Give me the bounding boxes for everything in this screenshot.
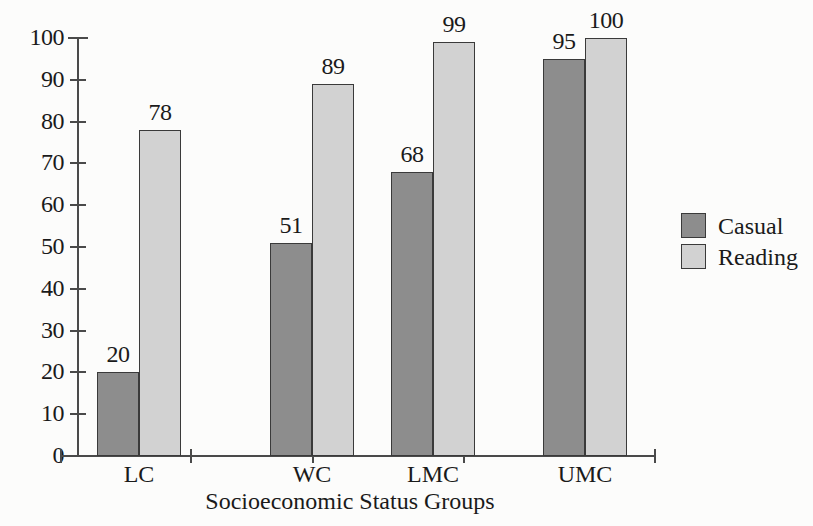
- bar-reading-wc[interactable]: [312, 84, 354, 456]
- y-tick-label-wrap: 80: [0, 109, 64, 133]
- y-tick-mark: [70, 371, 86, 373]
- y-tick-label-wrap: 100: [0, 25, 64, 49]
- y-tick-mark: [70, 204, 86, 206]
- bar-value-label: 100: [571, 8, 641, 32]
- y-tick-label-wrap: 30: [0, 318, 64, 342]
- x-category-label-lc: LC: [67, 462, 211, 486]
- legend-item-reading[interactable]: Reading: [681, 241, 798, 272]
- y-tick-label: 20: [20, 359, 64, 383]
- bar-reading-lc[interactable]: [139, 130, 181, 456]
- y-tick-label-wrap: 90: [0, 67, 64, 91]
- bar-reading-lmc[interactable]: [433, 42, 475, 456]
- y-tick-label-wrap: 50: [0, 234, 64, 258]
- legend-swatch-reading-icon: [681, 244, 706, 269]
- bar-value-label: 78: [125, 100, 195, 124]
- y-tick-label: 10: [20, 401, 64, 425]
- y-tick-label: 0: [20, 443, 64, 467]
- y-tick-mark: [70, 79, 86, 81]
- y-tick-label-wrap: 20: [0, 359, 64, 383]
- y-tick-label-wrap: 70: [0, 150, 64, 174]
- y-tick-label: 90: [20, 67, 64, 91]
- bar-value-label: 99: [419, 12, 489, 36]
- y-tick-label-wrap: 40: [0, 276, 64, 300]
- y-tick-label-wrap: 0: [0, 443, 64, 467]
- x-category-label-lmc: LMC: [361, 462, 505, 486]
- x-tick-mark: [60, 449, 62, 463]
- legend-label-reading: Reading: [718, 245, 798, 269]
- y-tick-mark: [70, 413, 86, 415]
- y-tick-label: 100: [20, 25, 64, 49]
- chart-canvas: 1009080706050403020100 20785189689995100…: [0, 0, 813, 526]
- legend-item-casual[interactable]: Casual: [681, 210, 798, 241]
- y-tick-mark: [70, 246, 86, 248]
- bar-casual-lmc[interactable]: [391, 172, 433, 456]
- y-tick-mark: [70, 288, 86, 290]
- y-tick-label: 50: [20, 234, 64, 258]
- legend: Casual Reading: [681, 210, 798, 272]
- bar-reading-umc[interactable]: [585, 38, 627, 456]
- y-tick-mark: [68, 37, 88, 39]
- y-tick-label-wrap: 10: [0, 401, 64, 425]
- x-tick-mark: [190, 449, 192, 463]
- y-tick-mark: [70, 121, 86, 123]
- x-category-label-umc: UMC: [513, 462, 657, 486]
- y-tick-label: 40: [20, 276, 64, 300]
- legend-label-casual: Casual: [718, 214, 783, 238]
- y-tick-label: 80: [20, 109, 64, 133]
- bar-casual-wc[interactable]: [270, 243, 312, 456]
- y-tick-mark: [70, 330, 86, 332]
- x-axis-title: Socioeconomic Status Groups: [0, 489, 700, 513]
- y-tick-mark: [70, 162, 86, 164]
- x-tick-mark: [654, 449, 656, 463]
- bar-casual-umc[interactable]: [543, 59, 585, 456]
- bar-casual-lc[interactable]: [97, 372, 139, 456]
- y-tick-label: 30: [20, 318, 64, 342]
- y-tick-label-wrap: 60: [0, 192, 64, 216]
- bar-value-label: 89: [298, 54, 368, 78]
- y-tick-label: 60: [20, 192, 64, 216]
- y-tick-label: 70: [20, 150, 64, 174]
- legend-swatch-casual-icon: [681, 213, 706, 238]
